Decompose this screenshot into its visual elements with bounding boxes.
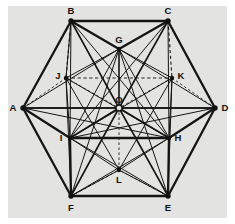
- vertex-node-a[interactable]: [20, 105, 25, 110]
- vertex-node-k[interactable]: [170, 76, 174, 80]
- vertex-node-l[interactable]: [117, 168, 121, 172]
- vertex-node-c[interactable]: [165, 18, 170, 23]
- vertex-node-h[interactable]: [167, 136, 171, 140]
- vertex-label-j: J: [55, 70, 60, 81]
- vertex-label-o: O: [115, 94, 122, 105]
- vertex-label-e: E: [165, 202, 171, 213]
- vertex-node-e[interactable]: [165, 193, 170, 198]
- vertex-node-d[interactable]: [212, 105, 217, 110]
- vertex-node-g[interactable]: [117, 47, 121, 51]
- vertex-label-i: I: [60, 132, 63, 143]
- vertex-label-d: D: [222, 102, 229, 113]
- vertex-label-k: K: [178, 70, 185, 81]
- vertex-node-j[interactable]: [64, 76, 68, 80]
- vertex-node-b[interactable]: [68, 18, 73, 23]
- vertex-node-o[interactable]: [116, 105, 122, 111]
- vertex-node-i[interactable]: [68, 136, 72, 140]
- edge-E-H: [168, 138, 169, 196]
- vertex-label-f: F: [68, 202, 74, 213]
- geometry-figure: ABCDEFGHIJKLO: [0, 0, 235, 224]
- vertex-label-h: H: [175, 132, 182, 143]
- vertex-label-c: C: [165, 5, 172, 16]
- vertex-label-l: L: [116, 174, 122, 185]
- vertex-label-a: A: [10, 102, 17, 113]
- vertex-label-b: B: [68, 5, 75, 16]
- edge-F-I: [70, 138, 71, 196]
- hexagon-cube-projection-svg: ABCDEFGHIJKLO: [0, 0, 235, 224]
- vertex-label-g: G: [115, 34, 122, 45]
- vertex-node-f[interactable]: [68, 193, 73, 198]
